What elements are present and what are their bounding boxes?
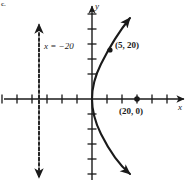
point-label-on-curve: (5, 20) [115, 41, 139, 50]
point-marker-on-curve [107, 47, 112, 52]
point-label-focus: (20, 0) [119, 107, 143, 116]
parabola-upper-branch [92, 18, 130, 99]
x-axis-label: x [178, 103, 182, 112]
point-marker-focus [134, 96, 140, 102]
directrix-equation-label: x = −20 [44, 42, 74, 51]
figure-tag-label: c. [1, 1, 6, 8]
graph-canvas [0, 0, 192, 184]
parabola-figure: c. y x x = −20 (5, 20) (20, 0) [0, 0, 192, 184]
y-axis-label: y [95, 2, 99, 11]
